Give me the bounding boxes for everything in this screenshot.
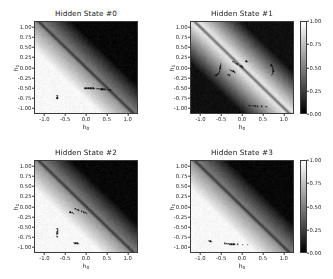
- y-tick-mark: [32, 226, 34, 227]
- y-tick-mark: [32, 108, 34, 109]
- figure-canvas: Hidden State #0 1.000.750.500.250.00-0.2…: [0, 0, 333, 279]
- x-tick-mark: [263, 114, 264, 116]
- y-tick-mark: [188, 166, 190, 167]
- colorbar-tick-label: 1.00: [310, 18, 322, 24]
- y-tick-label: 0.00: [20, 65, 32, 71]
- y-tick-label: -1.00: [174, 244, 188, 250]
- panel-hidden-state-3: Hidden State #3 1.000.750.500.250.00-0.2…: [190, 160, 294, 253]
- x-tick-label: 0.5: [103, 116, 111, 122]
- x-tick-mark: [127, 253, 128, 255]
- scatter-point: [118, 201, 120, 203]
- y-tick-label: -1.00: [18, 105, 32, 111]
- y-tick-mark: [188, 226, 190, 227]
- y-tick-label: -0.75: [174, 234, 188, 240]
- y-tick-label: 0.75: [20, 34, 32, 40]
- plot-area[interactable]: [190, 21, 294, 114]
- panel-hidden-state-2: Hidden State #2 1.000.750.500.250.00-0.2…: [34, 160, 138, 253]
- y-tick-label: 1.00: [20, 163, 32, 169]
- y-tick-label: 0.50: [20, 183, 32, 189]
- y-tick-mark: [188, 206, 190, 207]
- y-tick-mark: [32, 166, 34, 167]
- colorbar-gradient: [300, 21, 307, 114]
- plot-area[interactable]: [34, 21, 138, 114]
- x-tick-mark: [283, 253, 284, 255]
- panel-title: Hidden State #1: [190, 9, 294, 18]
- panel-title: Hidden State #0: [34, 9, 138, 18]
- plot-area[interactable]: [34, 160, 138, 253]
- scatter-point: [57, 98, 59, 100]
- y-tick-mark: [32, 247, 34, 248]
- panel-title: Hidden State #3: [190, 148, 294, 157]
- x-tick-label: 0.0: [238, 255, 246, 261]
- colorbar-tick-mark: [307, 229, 309, 230]
- y-tick-mark: [32, 206, 34, 207]
- y-tick-label: 0.50: [176, 183, 188, 189]
- x-tick-mark: [200, 253, 201, 255]
- y-tick-mark: [188, 247, 190, 248]
- y-tick-label: -0.25: [174, 75, 188, 81]
- y-tick-mark: [32, 37, 34, 38]
- y-tick-label: -0.50: [18, 224, 32, 230]
- y-tick-label: -0.75: [18, 234, 32, 240]
- y-tick-mark: [188, 57, 190, 58]
- x-axis-label: h0: [34, 262, 138, 270]
- colorbar-tick-mark: [307, 206, 309, 207]
- x-tick-label: -1.0: [195, 116, 205, 122]
- x-tick-label: 0.5: [259, 255, 267, 261]
- scatter-point: [237, 244, 239, 246]
- y-tick-mark: [188, 237, 190, 238]
- colorbar-tick-label: 0.50: [310, 65, 322, 71]
- y-tick-mark: [32, 98, 34, 99]
- x-tick-label: 0.5: [259, 116, 267, 122]
- y-tick-label: -0.50: [174, 224, 188, 230]
- colorbar-tick-label: 0.25: [310, 227, 322, 233]
- y-axis-label: h1: [13, 64, 21, 71]
- x-tick-label: 1.0: [279, 255, 287, 261]
- x-tick-label: 0.0: [82, 116, 90, 122]
- x-tick-label: 0.0: [238, 116, 246, 122]
- y-tick-label: -0.25: [18, 75, 32, 81]
- scatter-point: [261, 169, 263, 171]
- x-tick-mark: [65, 114, 66, 116]
- y-tick-label: -1.00: [18, 244, 32, 250]
- scatter-point: [271, 74, 273, 76]
- x-tick-mark: [263, 253, 264, 255]
- colorbar-gradient: [300, 160, 307, 253]
- y-tick-mark: [32, 87, 34, 88]
- y-axis-label: h1: [169, 64, 177, 71]
- plot-area[interactable]: [190, 160, 294, 253]
- scatter-point: [56, 236, 58, 238]
- y-tick-label: 0.50: [20, 44, 32, 50]
- y-tick-label: 1.00: [176, 163, 188, 169]
- y-tick-label: 0.25: [20, 193, 32, 199]
- x-tick-label: 1.0: [279, 116, 287, 122]
- scatter-point: [234, 71, 236, 73]
- x-tick-label: -1.0: [39, 116, 49, 122]
- y-tick-label: 0.50: [176, 44, 188, 50]
- colorbar-tick-mark: [307, 160, 309, 161]
- scatter-point: [247, 61, 249, 63]
- colorbar-tick-mark: [307, 44, 309, 45]
- y-tick-mark: [32, 27, 34, 28]
- panel-hidden-state-0: Hidden State #0 1.000.750.500.250.00-0.2…: [34, 21, 138, 114]
- scatter-point: [269, 33, 271, 35]
- x-tick-label: -1.0: [39, 255, 49, 261]
- scatter-point: [261, 106, 263, 108]
- y-tick-label: 0.00: [176, 204, 188, 210]
- scatter-point: [119, 203, 121, 205]
- x-tick-mark: [86, 114, 87, 116]
- colorbar-tick-mark: [307, 253, 309, 254]
- y-tick-mark: [188, 216, 190, 217]
- y-tick-label: -0.75: [18, 95, 32, 101]
- x-tick-label: 1.0: [123, 116, 131, 122]
- x-tick-mark: [44, 114, 45, 116]
- x-tick-mark: [127, 114, 128, 116]
- y-tick-label: -0.50: [174, 85, 188, 91]
- y-tick-label: -0.25: [174, 214, 188, 220]
- y-tick-mark: [32, 237, 34, 238]
- y-tick-label: 0.25: [20, 54, 32, 60]
- scatter-point: [97, 38, 99, 40]
- x-tick-label: -0.5: [216, 255, 226, 261]
- scatter-point: [275, 176, 277, 178]
- y-tick-mark: [188, 186, 190, 187]
